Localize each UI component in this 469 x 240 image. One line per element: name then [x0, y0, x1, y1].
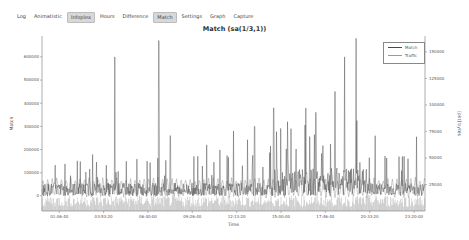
- x-tick-label: 15:00:00: [272, 214, 290, 219]
- y2-tick-label: 50000: [429, 155, 442, 160]
- match-line: [42, 38, 425, 196]
- x-tick-label: 17:46:40: [316, 214, 334, 219]
- legend-item-traffic: Traffic: [384, 51, 424, 59]
- x-tick-label: 20:33:20: [361, 214, 379, 219]
- chart-legend: Match Traffic: [383, 42, 425, 64]
- legend-swatch-traffic: [388, 55, 402, 56]
- legend-swatch-match: [388, 47, 402, 48]
- y2-tick-label: 150000: [429, 49, 445, 54]
- y-tick-label: 300000: [24, 124, 40, 129]
- legend-label-traffic: Traffic: [405, 53, 417, 58]
- x-tick-label: 23:20:00: [405, 214, 423, 219]
- legend-item-match: Match: [384, 43, 424, 51]
- y-tick-label: 400000: [24, 101, 40, 106]
- x-tick-label: 06:40:00: [139, 214, 157, 219]
- y2-tick-label: 100000: [429, 102, 445, 107]
- chart-plot: 0100000200000300000400000500000600000250…: [0, 0, 469, 240]
- y-tick-label: 200000: [24, 147, 40, 152]
- y-tick-label: 100000: [24, 170, 40, 175]
- y-tick-label: 600000: [24, 54, 40, 59]
- y2-tick-label: 25000: [429, 182, 442, 187]
- y2-tick-label: 125000: [429, 76, 445, 81]
- x-tick-label: 12:13:20: [228, 214, 246, 219]
- y2-axis-label: [pkt] bytes: [457, 111, 462, 136]
- y-tick-label: 0: [36, 193, 39, 198]
- x-tick-label: 03:53:20: [95, 214, 113, 219]
- y-tick-label: 500000: [24, 77, 40, 82]
- x-axis-label: Time: [227, 222, 239, 227]
- y-axis-label: Match: [9, 116, 14, 130]
- x-tick-label: 01:06:40: [50, 214, 68, 219]
- y2-tick-label: 75000: [429, 129, 442, 134]
- legend-label-match: Match: [405, 45, 417, 50]
- x-tick-label: 09:26:40: [183, 214, 201, 219]
